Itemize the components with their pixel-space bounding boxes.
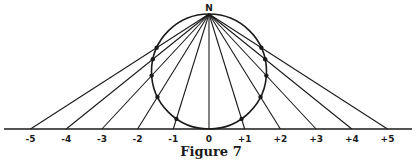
intersection-point — [174, 117, 178, 121]
intersection-point — [154, 46, 158, 50]
intersection-point — [151, 57, 155, 61]
projection-ray — [66, 14, 209, 129]
tick-label: -3 — [97, 134, 107, 144]
intersection-point — [149, 73, 153, 77]
projection-rays — [31, 14, 388, 129]
intersection-point — [264, 73, 268, 77]
tick-label: -4 — [61, 134, 71, 144]
tick-label: -5 — [26, 134, 36, 144]
intersection-point — [259, 46, 263, 50]
intersection-point — [258, 95, 262, 99]
projection-ray — [209, 14, 245, 129]
projection-ray — [209, 14, 280, 129]
intersection-point — [155, 95, 159, 99]
tick-label: -1 — [168, 134, 178, 144]
stereographic-projection-diagram: -5-4-3-2-10+1+2+3+4+5 N Figure 7 — [0, 0, 416, 162]
projection-ray — [138, 14, 209, 129]
tick-label: -2 — [133, 134, 143, 144]
projection-ray — [209, 14, 388, 129]
tick-label: +2 — [273, 134, 287, 144]
pole-label-n: N — [205, 3, 213, 13]
figure-caption: Figure 7 — [180, 144, 241, 159]
projection-ray — [173, 14, 209, 129]
projection-ray — [209, 14, 316, 129]
projection-ray — [102, 14, 209, 129]
intersection-point — [263, 57, 267, 61]
projection-ray — [31, 14, 210, 129]
tick-labels: -5-4-3-2-10+1+2+3+4+5 — [26, 134, 395, 144]
tick-label: +4 — [345, 134, 359, 144]
projection-ray — [209, 14, 352, 129]
tick-label: 0 — [206, 134, 212, 144]
tick-label: +5 — [381, 134, 395, 144]
intersection-point — [239, 117, 243, 121]
tick-label: +1 — [238, 134, 252, 144]
tick-label: +3 — [309, 134, 323, 144]
